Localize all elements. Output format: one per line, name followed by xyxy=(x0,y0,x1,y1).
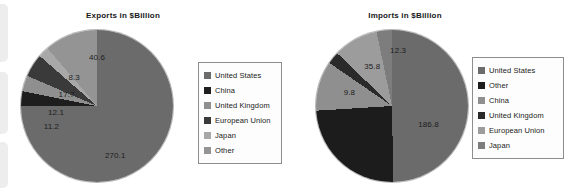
legend-item-label: United Kingdom xyxy=(215,101,270,110)
legend-swatch-icon xyxy=(204,102,211,109)
legend-item-label: China xyxy=(215,86,235,95)
legend-item-label: China xyxy=(489,96,509,105)
slice-value-label: 91.2 xyxy=(366,155,382,164)
legend-swatch-icon xyxy=(204,132,211,139)
slice-value-label: 186.8 xyxy=(418,120,439,129)
legend-item-label: Other xyxy=(489,81,508,90)
legend-item-label: Japan xyxy=(489,141,510,150)
legend-item[interactable]: United States xyxy=(478,63,557,78)
legend-swatch-icon xyxy=(478,112,485,119)
slice-value-label: 35.8 xyxy=(364,62,380,71)
imports-chart-title: Imports in $Billion xyxy=(286,11,572,20)
legend-swatch-icon xyxy=(478,97,485,104)
legend-item[interactable]: Other xyxy=(478,78,557,93)
legend-item[interactable]: Japan xyxy=(478,138,557,153)
legend-swatch-icon xyxy=(478,67,485,74)
legend-swatch-icon xyxy=(478,142,485,149)
imports-chart-panel: Imports in $Billion 12.335.89.839.791.21… xyxy=(286,0,572,192)
slice-value-label: 40.6 xyxy=(89,53,105,62)
chart-sheet: Exports in $Billion 40.68.317.712.111.22… xyxy=(0,0,572,192)
slice-value-label: 12.3 xyxy=(390,45,406,54)
legend-item-label: United Kingdom xyxy=(489,111,544,120)
legend-item[interactable]: Japan xyxy=(204,128,275,143)
legend-item-label: Japan xyxy=(215,131,236,140)
slice-value-label: 8.3 xyxy=(68,73,79,82)
legend-item-label: European Union xyxy=(489,126,545,135)
exports-chart-panel: Exports in $Billion 40.68.317.712.111.22… xyxy=(0,0,286,192)
exports-pie-area: 40.68.317.712.111.2270.1 xyxy=(21,30,173,182)
legend-item[interactable]: China xyxy=(478,93,557,108)
slice-value-label: 17.7 xyxy=(59,89,75,98)
legend-item[interactable]: United States xyxy=(204,68,275,83)
exports-legend: United StatesChinaUnited KingdomEuropean… xyxy=(198,62,282,164)
legend-swatch-icon xyxy=(478,82,485,89)
legend-swatch-icon xyxy=(204,147,211,154)
legend-item[interactable]: United Kingdom xyxy=(204,98,275,113)
legend-swatch-icon xyxy=(204,72,211,79)
legend-item-label: United States xyxy=(489,66,535,75)
legend-item[interactable]: China xyxy=(204,83,275,98)
legend-item-label: United States xyxy=(215,71,261,80)
legend-swatch-icon xyxy=(478,127,485,134)
imports-pie-area: 12.335.89.839.791.2186.8 xyxy=(316,30,468,182)
legend-swatch-icon xyxy=(204,117,211,124)
legend-item[interactable]: Other xyxy=(204,143,275,158)
legend-swatch-icon xyxy=(204,87,211,94)
slice-value-label: 270.1 xyxy=(105,150,126,159)
legend-item-label: Other xyxy=(215,146,234,155)
legend-item[interactable]: European Union xyxy=(478,123,557,138)
legend-item[interactable]: United Kingdom xyxy=(478,108,557,123)
legend-item[interactable]: European Union xyxy=(204,113,275,128)
imports-legend: United StatesOtherChinaUnited KingdomEur… xyxy=(472,57,564,159)
slice-value-label: 39.7 xyxy=(331,114,347,123)
slice-value-label: 9.8 xyxy=(344,88,355,97)
slice-value-label: 12.1 xyxy=(48,108,64,117)
exports-chart-title: Exports in $Billion xyxy=(0,11,286,20)
slice-value-label: 11.2 xyxy=(44,121,59,130)
legend-item-label: European Union xyxy=(215,116,271,125)
